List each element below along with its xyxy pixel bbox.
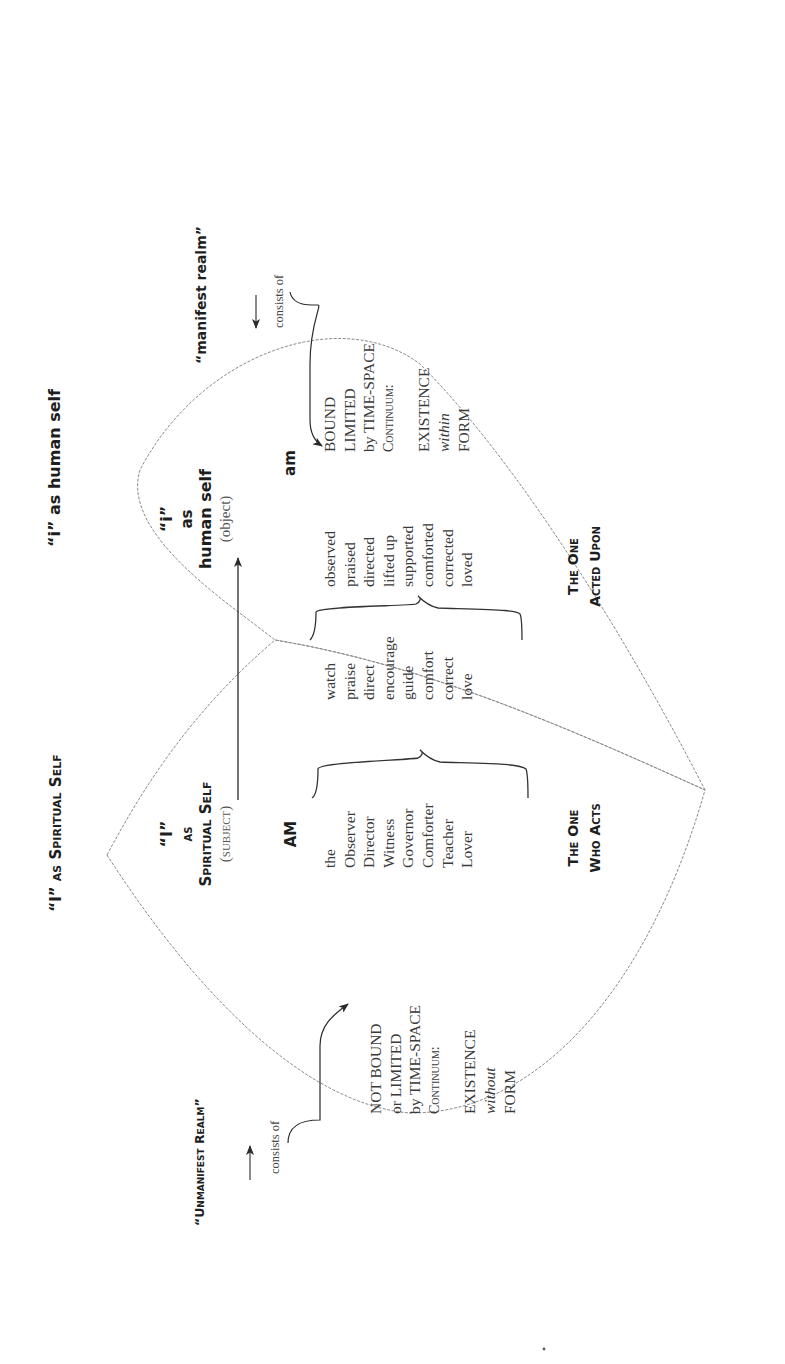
object-label: (object) bbox=[216, 454, 234, 584]
noun-item: the bbox=[320, 803, 340, 868]
manifest-realm-label: “manifest realm” bbox=[193, 226, 209, 364]
passive-verb-item: observed bbox=[320, 523, 340, 587]
passive-verb-item: directed bbox=[359, 523, 379, 587]
verb-item: direct bbox=[359, 636, 379, 700]
brace-verbs bbox=[310, 596, 522, 640]
spiritual-nouns-list: the Observer Director Witness Governor C… bbox=[320, 803, 477, 868]
caption-line: The One bbox=[562, 802, 584, 874]
manifest-curved-arrow bbox=[290, 292, 322, 446]
passive-verb-item: comforted bbox=[418, 523, 438, 587]
noun-item: Comforter bbox=[418, 803, 438, 868]
verb-item: correct bbox=[438, 636, 458, 700]
noun-item: Teacher bbox=[438, 803, 458, 868]
manifest-line: by TIME-SPACE bbox=[359, 343, 379, 452]
verb-AM: AM bbox=[282, 804, 300, 864]
noun-item: Witness bbox=[379, 803, 399, 868]
spiritual-self-name: Spiritual Self bbox=[196, 774, 216, 894]
pronoun-I: “I” bbox=[156, 774, 178, 894]
pronoun-i: “i” bbox=[156, 454, 178, 584]
human-self-block: “i” as human self (object) bbox=[156, 454, 234, 584]
subject-label: (subject) bbox=[216, 774, 234, 894]
title-spiritual-text: “I” as Spiritual Self bbox=[47, 754, 65, 911]
unmanifest-line: NOT BOUND bbox=[366, 1005, 386, 1114]
unmanifest-existence: FORM bbox=[500, 1005, 520, 1114]
verb-item: comfort bbox=[418, 636, 438, 700]
title-spiritual-self: “I” as Spiritual Self bbox=[47, 742, 65, 924]
diagram-page: “I” as Spiritual Self “i” as human self … bbox=[0, 0, 785, 1364]
manifest-existence: FORM bbox=[454, 343, 474, 452]
title-human-text: “i” as human self bbox=[45, 389, 64, 547]
verb-am: am bbox=[281, 438, 299, 488]
unmanifest-realm-label: “Unmanifest Realm” bbox=[192, 1098, 207, 1226]
caption-line: The One bbox=[562, 514, 584, 619]
passive-verb-item: corrected bbox=[438, 523, 458, 587]
manifest-existence: EXISTENCE bbox=[414, 343, 434, 452]
page-dot bbox=[543, 1348, 546, 1351]
brace-nouns bbox=[312, 750, 528, 798]
noun-item: Governor bbox=[398, 803, 418, 868]
unmanifest-description: NOT BOUND or LIMITED by TIME-SPACE Conti… bbox=[366, 1005, 519, 1114]
manifest-description: BOUND LIMITED by TIME-SPACE Continuum: E… bbox=[320, 343, 473, 452]
passive-verb-item: loved bbox=[457, 523, 477, 587]
unmanifest-line: Continuum: bbox=[425, 1005, 445, 1114]
passive-verb-item: lifted up bbox=[379, 523, 399, 587]
as-label-human: as bbox=[178, 454, 196, 584]
noun-item: Lover bbox=[457, 803, 477, 868]
human-self-name: human self bbox=[196, 454, 216, 584]
unmanifest-line: or LIMITED bbox=[386, 1005, 406, 1114]
noun-item: Director bbox=[359, 803, 379, 868]
manifest-line: LIMITED bbox=[340, 343, 360, 452]
verb-item: watch bbox=[320, 636, 340, 700]
unmanifest-line: by TIME-SPACE bbox=[405, 1005, 425, 1114]
action-verbs-list: watch praise direct encourage guide comf… bbox=[320, 636, 477, 700]
verb-item: encourage bbox=[379, 636, 399, 700]
manifest-consists-of: consists of bbox=[272, 275, 287, 328]
manifest-line: BOUND bbox=[320, 343, 340, 452]
spiritual-self-block: “I” as Spiritual Self (subject) bbox=[156, 774, 234, 894]
passive-verb-item: praised bbox=[340, 523, 360, 587]
manifest-existence: within bbox=[434, 343, 454, 452]
caption-one-acted-upon: The One Acted Upon bbox=[562, 514, 606, 619]
as-label: as bbox=[178, 774, 196, 894]
title-human-self: “i” as human self bbox=[45, 362, 64, 574]
passive-verbs-list: observed praised directed lifted up supp… bbox=[320, 523, 477, 587]
caption-line: Acted Upon bbox=[584, 514, 606, 619]
manifest-line: Continuum: bbox=[379, 343, 399, 452]
verb-item: guide bbox=[398, 636, 418, 700]
unmanifest-existence: without bbox=[480, 1005, 500, 1114]
passive-verb-item: supported bbox=[398, 523, 418, 587]
caption-line: Who Acts bbox=[584, 802, 606, 874]
unmanifest-consists-of: consists of bbox=[268, 1121, 283, 1174]
unmanifest-curved-arrow bbox=[288, 1004, 348, 1143]
verb-item: love bbox=[457, 636, 477, 700]
unmanifest-existence: EXISTENCE bbox=[460, 1005, 480, 1114]
noun-item: Observer bbox=[340, 803, 360, 868]
verb-item: praise bbox=[340, 636, 360, 700]
caption-one-who-acts: The One Who Acts bbox=[562, 802, 606, 874]
